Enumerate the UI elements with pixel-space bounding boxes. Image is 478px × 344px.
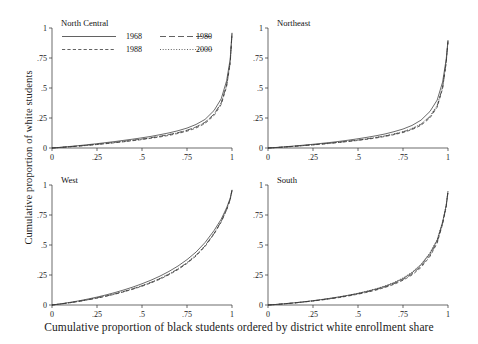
- x-tick-label: .5: [355, 153, 361, 162]
- figure-canvas: 0.25.5.7510.25.5.751North Central0.25.5.…: [0, 0, 478, 344]
- legend-label-2000: 2000: [196, 45, 212, 54]
- x-axis-label: Cumulative proportion of black students …: [0, 321, 478, 333]
- curve-2000: [52, 190, 232, 305]
- panel-title: West: [61, 175, 79, 185]
- curve-1968: [268, 191, 448, 305]
- panel-south: 0.25.5.7510.25.5.751South: [253, 175, 450, 319]
- curve-1968: [52, 190, 232, 305]
- legend-label-1988: 1988: [126, 45, 142, 54]
- y-tick-label: 1: [43, 181, 47, 190]
- y-tick-label: .75: [37, 54, 47, 63]
- y-tick-label: 1: [259, 181, 263, 190]
- y-tick-label: 0: [43, 301, 47, 310]
- x-tick-label: .5: [139, 310, 145, 319]
- x-tick-label: 1: [230, 310, 234, 319]
- x-tick-label: .25: [308, 153, 318, 162]
- curve-1988: [268, 42, 448, 148]
- x-tick-label: .5: [139, 153, 145, 162]
- x-tick-label: .5: [355, 310, 361, 319]
- y-tick-label: 0: [259, 144, 263, 153]
- y-tick-label: .75: [253, 54, 263, 63]
- y-tick-label: 0: [259, 301, 263, 310]
- y-tick-label: .25: [37, 114, 47, 123]
- curve-1980: [52, 190, 232, 305]
- panel-title: North Central: [61, 18, 109, 28]
- y-tick-label: 1: [43, 24, 47, 33]
- legend-label-1968: 1968: [126, 32, 142, 41]
- y-tick-label: .25: [253, 271, 263, 280]
- x-tick-label: .75: [398, 310, 408, 319]
- x-tick-label: 1: [446, 153, 450, 162]
- y-tick-label: .5: [41, 84, 47, 93]
- y-tick-label: .75: [37, 211, 47, 220]
- curve-2000: [268, 191, 448, 305]
- x-tick-label: 1: [446, 310, 450, 319]
- y-tick-label: .5: [41, 241, 47, 250]
- x-tick-label: .25: [308, 310, 318, 319]
- curve-1988: [52, 191, 232, 305]
- x-tick-label: 0: [50, 153, 54, 162]
- x-tick-label: 0: [266, 310, 270, 319]
- panel-west: 0.25.5.7510.25.5.751West: [37, 175, 234, 319]
- x-tick-label: .75: [182, 153, 192, 162]
- y-tick-label: .25: [253, 114, 263, 123]
- panel-title: Northeast: [277, 18, 311, 28]
- x-tick-label: .25: [92, 153, 102, 162]
- legend-label-1980: 1980: [196, 32, 212, 41]
- curve-2000: [268, 41, 448, 148]
- y-axis-label: Cumulative proportion of white students: [23, 58, 34, 258]
- curve-1968: [268, 40, 448, 148]
- y-tick-label: 1: [259, 24, 263, 33]
- legend: 1968198819802000: [62, 32, 214, 54]
- panel-title: South: [277, 175, 298, 185]
- y-tick-label: .25: [37, 271, 47, 280]
- x-tick-label: .25: [92, 310, 102, 319]
- y-tick-label: .75: [253, 211, 263, 220]
- curve-1988: [268, 192, 448, 305]
- x-tick-label: 0: [266, 153, 270, 162]
- x-tick-label: 0: [50, 310, 54, 319]
- x-tick-label: 1: [230, 153, 234, 162]
- multi-panel-lorenz-chart: 0.25.5.7510.25.5.751North Central0.25.5.…: [0, 0, 478, 344]
- x-tick-label: .75: [398, 153, 408, 162]
- x-tick-label: .75: [182, 310, 192, 319]
- curve-1980: [268, 192, 448, 305]
- curve-1980: [268, 41, 448, 148]
- panel-northeast: 0.25.5.7510.25.5.751Northeast: [253, 18, 450, 162]
- y-tick-label: .5: [257, 84, 263, 93]
- y-tick-label: .5: [257, 241, 263, 250]
- y-tick-label: 0: [43, 144, 47, 153]
